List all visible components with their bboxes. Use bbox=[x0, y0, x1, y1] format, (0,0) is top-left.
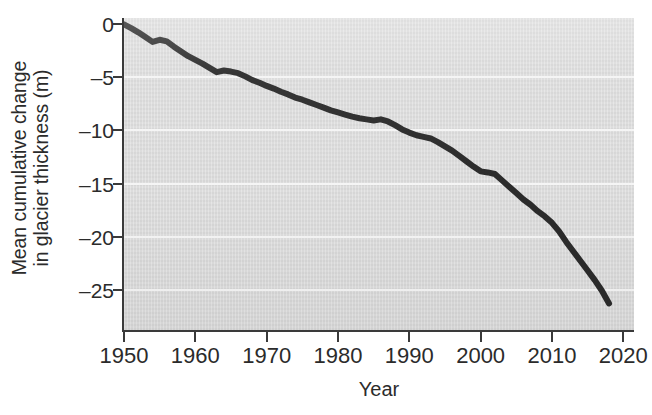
y-axis-title: Mean cumulative change in glacier thickn… bbox=[0, 0, 60, 335]
y-tick-label-0: 0 bbox=[62, 14, 114, 35]
x-tick-mark bbox=[123, 332, 125, 342]
x-tick-label-1990: 1990 bbox=[369, 344, 449, 368]
y-tick-mark bbox=[113, 236, 123, 238]
y-tick-mark bbox=[113, 23, 123, 25]
y-tick-label-neg15: –15 bbox=[62, 173, 114, 194]
x-tick-label-1980: 1980 bbox=[298, 344, 378, 368]
x-tick-mark bbox=[408, 332, 410, 342]
y-axis-title-line1: Mean cumulative change bbox=[8, 60, 30, 275]
y-tick-label-neg5: –5 bbox=[62, 67, 114, 88]
x-tick-mark bbox=[337, 332, 339, 342]
y-tick-mark bbox=[113, 183, 123, 185]
series-glacier-thickness bbox=[124, 18, 634, 330]
x-tick-label-2010: 2010 bbox=[512, 344, 592, 368]
y-tick-label-neg10: –10 bbox=[62, 120, 114, 141]
y-tick-mark bbox=[113, 289, 123, 291]
x-tick-label-1950: 1950 bbox=[84, 344, 164, 368]
x-tick-mark bbox=[622, 332, 624, 342]
y-tick-label-neg25: –25 bbox=[62, 279, 114, 300]
y-tick-mark bbox=[113, 76, 123, 78]
x-tick-mark bbox=[480, 332, 482, 342]
x-axis-title: Year bbox=[124, 378, 634, 401]
x-tick-label-2000: 2000 bbox=[441, 344, 521, 368]
plot-area bbox=[124, 18, 634, 330]
x-tick-mark bbox=[551, 332, 553, 342]
y-tick-label-neg20: –20 bbox=[62, 226, 114, 247]
x-tick-label-2020: 2020 bbox=[583, 344, 652, 368]
x-tick-label-1970: 1970 bbox=[227, 344, 307, 368]
x-tick-mark bbox=[266, 332, 268, 342]
y-tick-mark bbox=[113, 129, 123, 131]
x-axis-line bbox=[122, 330, 634, 332]
x-tick-mark bbox=[194, 332, 196, 342]
y-axis-tick-labels: 0–5–10–15–20–25 bbox=[58, 0, 114, 335]
y-axis-title-line2: in glacier thickness (m) bbox=[30, 60, 52, 275]
x-tick-label-1960: 1960 bbox=[155, 344, 235, 368]
